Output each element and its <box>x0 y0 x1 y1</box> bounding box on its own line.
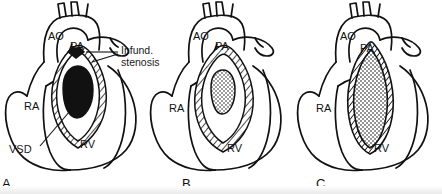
label-ao-c: AO <box>340 30 356 42</box>
figure-tetralogy-of-fallot: AO PA RA RV <box>0 0 442 194</box>
label-ra-a: RA <box>24 100 40 112</box>
label-ra-c: RA <box>316 102 332 114</box>
label-ao-b: AO <box>193 30 209 42</box>
bottom-divider <box>0 186 442 194</box>
vsd-black-region <box>63 66 93 118</box>
stippled-chamber-b <box>211 70 235 114</box>
callout-infundibular-stenosis: Infund. stenosis <box>121 45 160 69</box>
label-ao-a: AO <box>48 30 64 42</box>
label-pa-c: PA <box>360 42 375 54</box>
label-rv-a: RV <box>80 138 96 150</box>
label-pa-a: PA <box>70 40 85 52</box>
label-rv-c: RV <box>374 142 390 154</box>
panel-b: AO PA RA RV <box>145 0 292 178</box>
panel-c: AO PA RA RV <box>292 0 439 178</box>
label-ra-b: RA <box>169 102 185 114</box>
callout-vsd: VSD <box>9 143 32 155</box>
label-rv-b: RV <box>227 142 243 154</box>
label-pa-b: PA <box>215 40 230 52</box>
